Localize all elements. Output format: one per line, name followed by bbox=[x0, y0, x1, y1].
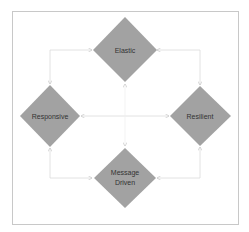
elastic-label: Elastic bbox=[115, 47, 136, 54]
message-driven-label-line2: Driven bbox=[115, 179, 135, 186]
resilient-label: Resilient bbox=[187, 113, 214, 120]
message-driven-label-line1: Message bbox=[111, 169, 140, 177]
responsive-label: Responsive bbox=[32, 113, 69, 121]
reactive-diagram: Elastic Responsive Resilient Message Dri… bbox=[0, 0, 249, 232]
